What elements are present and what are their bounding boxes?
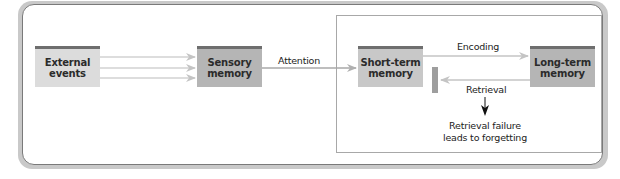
connector-arrows [0, 0, 620, 179]
node-short-term-memory: Short-termmemory [358, 46, 423, 87]
external-to-sensory-arrows [100, 57, 195, 78]
note-line1: Retrieval failure [449, 120, 521, 131]
node-label-line1: Sensory [208, 57, 252, 68]
retrieval-block-bar [432, 67, 438, 93]
retrieval-label: Retrieval [466, 84, 506, 95]
node-label-line1: External [45, 57, 90, 68]
node-label-line2: memory [207, 68, 252, 79]
node-label-line2: events [49, 68, 86, 79]
node-label-line1: Long-term [534, 57, 591, 68]
note-line2: leads to forgetting [443, 132, 527, 143]
node-label-line1: Short-term [361, 57, 421, 68]
attention-label: Attention [278, 55, 320, 66]
encoding-label: Encoding [457, 41, 499, 52]
retrieval-failure-note: Retrieval failure leads to forgetting [430, 120, 540, 144]
node-label-line2: memory [368, 68, 413, 79]
node-external-events: Externalevents [35, 46, 100, 87]
forgetting-down-arrow [481, 97, 489, 116]
node-label-line2: memory [540, 68, 585, 79]
node-long-term-memory: Long-termmemory [530, 46, 595, 87]
node-sensory-memory: Sensorymemory [197, 46, 262, 87]
